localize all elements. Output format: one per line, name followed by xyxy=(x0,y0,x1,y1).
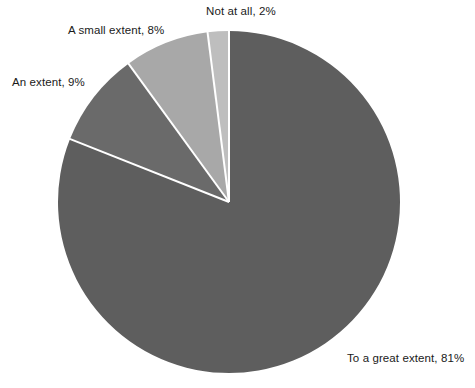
pie-label-a-small-extent: A small extent, 8% xyxy=(68,24,164,38)
pie-chart: Not at all, 2% A small extent, 8% An ext… xyxy=(0,0,475,388)
pie-label-to-a-great-extent: To a great extent, 81% xyxy=(347,352,464,366)
pie-chart-graphic xyxy=(0,0,475,388)
pie-label-not-at-all: Not at all, 2% xyxy=(206,5,276,19)
pie-label-an-extent: An extent, 9% xyxy=(12,76,85,90)
